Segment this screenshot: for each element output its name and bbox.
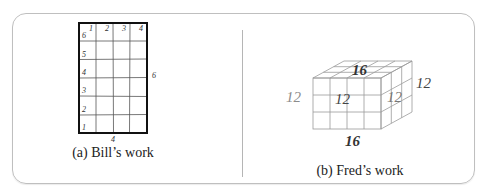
bottom-dimension-label: 4 [111, 135, 115, 144]
top-label-2: 2 [105, 24, 109, 33]
left-label-3: 3 [81, 86, 86, 95]
prism-front-label: 12 [335, 91, 351, 107]
top-label-3: 3 [121, 24, 126, 33]
left-label-6: 6 [82, 31, 86, 40]
prism-side-label: 12 [387, 89, 403, 105]
bill-grid [79, 23, 147, 133]
prism-bottom-label: 16 [345, 133, 361, 149]
caption-fred: (b) Fred’s work [316, 163, 403, 179]
top-label-4: 4 [139, 24, 143, 33]
prism-right-label: 12 [416, 75, 432, 91]
right-dimension-label: 6 [152, 71, 156, 80]
left-label-1: 1 [82, 123, 86, 132]
top-label-1: 1 [89, 24, 93, 33]
prism-left-label: 12 [286, 89, 302, 105]
left-label-2: 2 [82, 105, 86, 114]
prism-top-label: 16 [352, 62, 368, 78]
caption-bill: (a) Bill’s work [72, 145, 154, 161]
left-label-4: 4 [82, 68, 86, 77]
left-label-5: 5 [82, 50, 86, 59]
bill-grid-diagram: 1 2 3 4 6 5 4 3 2 1 6 4 16 16 [0, 0, 487, 194]
